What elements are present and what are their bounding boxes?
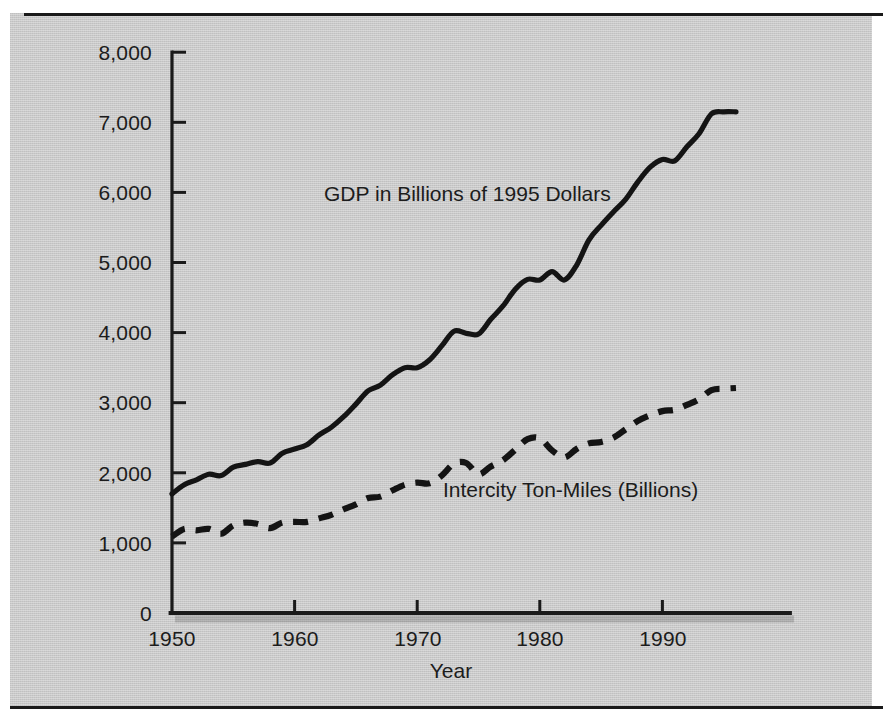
x-tick-label-1960: 1960 <box>255 628 335 649</box>
x-tick-label-1980: 1980 <box>500 628 580 649</box>
y-tick-label-2000: 2,000 <box>92 463 152 484</box>
x-axis-title: Year <box>391 660 511 681</box>
x-tick-label-1970: 1970 <box>378 628 458 649</box>
y-tick-label-8000: 8,000 <box>92 42 152 63</box>
figure-page: 8,000 7,000 6,000 5,000 4,000 3,000 2,00… <box>0 0 883 728</box>
y-tick-label-4000: 4,000 <box>92 322 152 343</box>
y-tick-label-6000: 6,000 <box>92 182 152 203</box>
x-tick-label-1950: 1950 <box>132 628 212 649</box>
y-tick-label-5000: 5,000 <box>92 252 152 273</box>
y-tick-label-1000: 1,000 <box>92 533 152 554</box>
y-tick-label-0: 0 <box>92 603 152 624</box>
y-tick-label-7000: 7,000 <box>92 112 152 133</box>
gdp-series-label: GDP in Billions of 1995 Dollars <box>324 183 611 204</box>
x-tick-label-1990: 1990 <box>623 628 703 649</box>
chart-axes <box>171 52 795 619</box>
chart-series <box>172 112 736 537</box>
tonmiles-series-label: Intercity Ton-Miles (Billions) <box>443 479 698 500</box>
y-tick-label-3000: 3,000 <box>92 392 152 413</box>
